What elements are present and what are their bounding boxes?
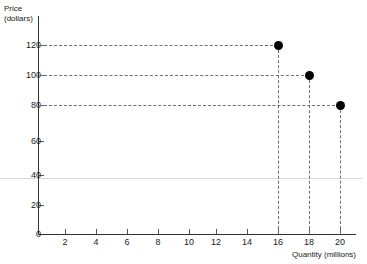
y-tick-label-100: 100 xyxy=(1,71,41,80)
guide-vertical-20 xyxy=(340,105,341,234)
guide-vertical-18 xyxy=(309,75,310,234)
y-tick-label-120: 120 xyxy=(1,41,41,50)
guide-horizontal-80 xyxy=(39,105,340,106)
x-tick-8 xyxy=(158,229,159,234)
data-point xyxy=(305,71,314,80)
y-tick-label-20: 20 xyxy=(1,201,41,210)
y-axis-title-line-2: (dollars) xyxy=(4,14,33,24)
x-tick-12 xyxy=(216,229,217,234)
x-tick-label-8: 8 xyxy=(146,237,170,247)
x-tick-10 xyxy=(189,229,190,234)
x-tick-2 xyxy=(65,229,66,234)
x-tick-6 xyxy=(127,229,128,234)
x-tick-14 xyxy=(247,229,248,234)
x-tick-label-14: 14 xyxy=(235,237,259,247)
x-tick-label-12: 12 xyxy=(204,237,228,247)
x-tick-label-6: 6 xyxy=(115,237,139,247)
x-tick-label-10: 10 xyxy=(177,237,201,247)
y-axis-title-line-1: Price xyxy=(4,4,33,14)
x-axis-line xyxy=(38,234,356,235)
y-tick-label-0: 0 xyxy=(1,230,41,239)
x-tick-4 xyxy=(96,229,97,234)
data-point xyxy=(336,101,345,110)
y-tick-label-60: 60 xyxy=(1,137,41,146)
x-tick-label-18: 18 xyxy=(297,237,321,247)
x-tick-label-16: 16 xyxy=(266,237,290,247)
x-tick-label-4: 4 xyxy=(84,237,108,247)
x-tick-label-20: 20 xyxy=(328,237,352,247)
x-tick-label-2: 2 xyxy=(53,237,77,247)
guide-vertical-16 xyxy=(278,45,279,234)
data-point xyxy=(274,41,283,50)
x-axis-title: Quantity (millions) xyxy=(292,250,356,260)
reference-rule xyxy=(0,178,362,179)
y-tick-label-80: 80 xyxy=(1,101,41,110)
price-quantity-scatter-chart: Price (dollars) 120 100 80 60 40 20 0 2 … xyxy=(0,0,367,264)
y-tick-label-40: 40 xyxy=(1,171,41,180)
guide-horizontal-120 xyxy=(39,45,278,46)
guide-horizontal-100 xyxy=(39,75,309,76)
y-axis-title: Price (dollars) xyxy=(4,4,33,23)
